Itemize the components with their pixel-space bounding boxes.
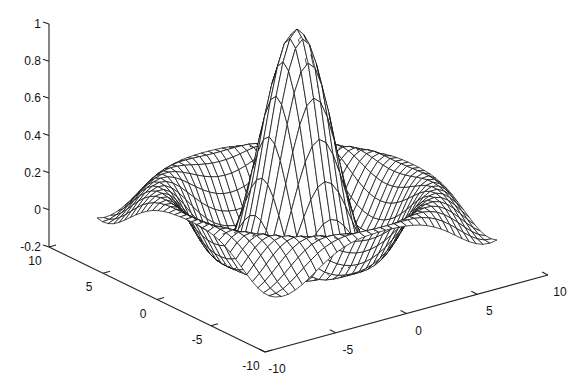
y-tick-label: 5 — [86, 280, 93, 294]
x-tick-label: -5 — [342, 343, 353, 357]
z-tick — [43, 245, 49, 247]
sinc-mesh-surface — [97, 29, 497, 297]
x-tick-label: 0 — [415, 324, 422, 338]
z-tick-label: 0.6 — [24, 91, 41, 105]
z-tick — [43, 134, 49, 136]
x-tick-label: -10 — [268, 362, 286, 376]
z-tick — [43, 22, 49, 24]
z-tick-label: 1 — [34, 17, 41, 31]
y-tick — [49, 245, 56, 247]
y-tick — [265, 350, 272, 352]
x-tick-label: 10 — [553, 285, 567, 299]
z-tick-label: -0.2 — [20, 240, 41, 254]
y-tick-label: 10 — [28, 254, 42, 268]
z-tick-label: 0.8 — [24, 54, 41, 68]
z-tick-label: 0.2 — [24, 166, 41, 180]
z-tick — [43, 208, 49, 210]
x-tick — [259, 349, 265, 352]
x-tick — [401, 311, 407, 314]
x-tick — [471, 291, 477, 294]
y-tick — [157, 298, 164, 300]
z-tick — [43, 171, 49, 173]
y-tick-label: -5 — [192, 333, 203, 347]
y-tick — [103, 271, 110, 273]
x-tick — [330, 330, 336, 333]
x-tick-label: 5 — [486, 304, 493, 318]
y-tick-label: -10 — [242, 359, 260, 373]
z-tick-label: 0 — [34, 203, 41, 217]
y-tick — [211, 324, 218, 326]
z-tick-label: 0.4 — [24, 129, 41, 143]
surface-plot: -10-50510-10-50510-0.200.20.40.60.81 — [0, 0, 588, 385]
x-tick — [542, 272, 548, 275]
z-tick — [43, 96, 49, 98]
z-tick — [43, 59, 49, 61]
y-tick-label: 0 — [140, 307, 147, 321]
